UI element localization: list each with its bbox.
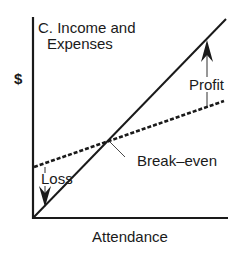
chart-title-line1: C. Income and [38,20,136,35]
break-even-annotation: Break–even [137,153,217,168]
profit-annotation: Profit [189,77,224,92]
chart-title-line2: Expenses [47,36,113,51]
y-axis-label: $ [14,71,22,86]
break-even-chart [0,0,240,255]
loss-annotation: Loss [41,171,73,186]
x-axis-label: Attendance [92,229,168,244]
break-even-leader [110,142,125,157]
profit-arrow-icon [201,40,213,107]
